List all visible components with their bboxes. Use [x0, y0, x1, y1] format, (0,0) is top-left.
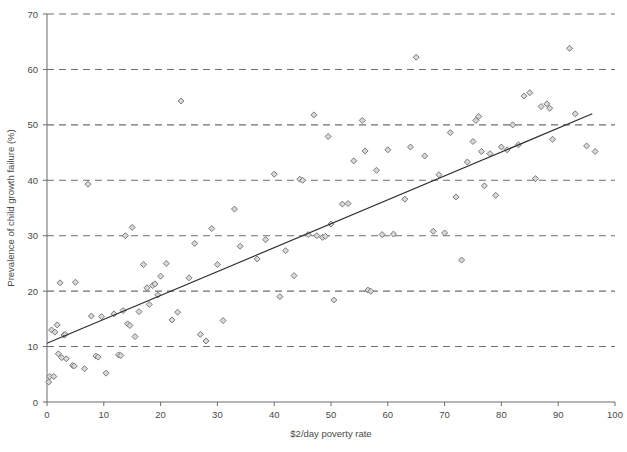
data-point [214, 262, 220, 268]
data-point [271, 171, 277, 177]
data-point [192, 240, 198, 246]
data-point [567, 45, 573, 51]
data-point [237, 243, 243, 249]
data-point [144, 285, 150, 291]
y-tick-label-60: 60 [27, 64, 38, 75]
data-point [291, 273, 297, 279]
data-point [146, 301, 152, 307]
data-point [550, 136, 556, 142]
x-tick-label-80: 80 [496, 409, 507, 420]
data-point [464, 159, 470, 165]
data-point [88, 313, 94, 319]
data-point [447, 130, 453, 136]
data-point [345, 201, 351, 207]
data-point [129, 224, 135, 230]
data-point [538, 104, 544, 110]
data-point [422, 153, 428, 159]
y-tick-label-10: 10 [27, 341, 38, 352]
data-point [277, 294, 283, 300]
x-tick-label-50: 50 [326, 409, 337, 420]
data-point [408, 144, 414, 150]
y-tick-label-50: 50 [27, 119, 38, 130]
data-point [197, 331, 203, 337]
data-point [339, 201, 345, 207]
data-point [141, 262, 147, 268]
data-point [314, 233, 320, 239]
data-point [57, 280, 63, 286]
data-point [99, 314, 105, 320]
data-point [430, 228, 436, 234]
data-point [402, 196, 408, 202]
plot-canvas: 010203040506070 0102030405060708090100 P… [0, 0, 627, 452]
x-tick-label-70: 70 [439, 409, 450, 420]
x-tick-labels: 0102030405060708090100 [44, 402, 623, 420]
gridlines [47, 14, 615, 347]
data-point [163, 260, 169, 266]
trend-line [47, 114, 592, 343]
x-tick-label-10: 10 [99, 409, 110, 420]
data-point [442, 230, 448, 236]
data-point [373, 167, 379, 173]
data-point [54, 322, 60, 328]
x-tick-label-20: 20 [155, 409, 166, 420]
data-point [178, 98, 184, 104]
data-points [46, 45, 598, 385]
data-point [527, 90, 533, 96]
y-tick-label-30: 30 [27, 230, 38, 241]
data-point [220, 318, 226, 324]
x-axis-title: $2/day poverty rate [290, 428, 371, 439]
data-point [453, 194, 459, 200]
x-tick-label-0: 0 [44, 409, 49, 420]
data-point [359, 117, 365, 123]
data-point [481, 183, 487, 189]
data-point [362, 148, 368, 154]
data-point [498, 144, 504, 150]
data-point [283, 248, 289, 254]
y-tick-label-70: 70 [27, 9, 38, 20]
scatter-chart: 010203040506070 0102030405060708090100 P… [0, 0, 627, 452]
y-tick-label-0: 0 [33, 397, 38, 408]
data-point [351, 158, 357, 164]
x-tick-label-100: 100 [607, 409, 623, 420]
data-point [132, 334, 138, 340]
data-point [85, 181, 91, 187]
data-point [521, 93, 527, 99]
data-point [413, 54, 419, 60]
data-point [169, 317, 175, 323]
data-point [584, 143, 590, 149]
x-tick-label-90: 90 [553, 409, 564, 420]
data-point [263, 237, 269, 243]
y-tick-label-20: 20 [27, 286, 38, 297]
data-point [231, 206, 237, 212]
axes [47, 14, 615, 402]
data-point [385, 147, 391, 153]
data-point [459, 257, 465, 263]
data-point [51, 374, 57, 380]
y-tick-labels: 010203040506070 [27, 9, 47, 408]
data-point [136, 309, 142, 315]
y-tick-label-40: 40 [27, 175, 38, 186]
data-point [510, 122, 516, 128]
y-axis-title: Prevalence of child growth failure (%) [5, 129, 16, 286]
data-point [331, 297, 337, 303]
data-point [209, 226, 215, 232]
x-tick-label-40: 40 [269, 409, 280, 420]
data-point [254, 256, 260, 262]
data-point [175, 309, 181, 315]
x-tick-label-30: 30 [212, 409, 223, 420]
data-point [493, 192, 499, 198]
data-point [103, 370, 109, 376]
data-point [81, 366, 87, 372]
data-point [158, 273, 164, 279]
data-point [311, 112, 317, 118]
data-point [186, 275, 192, 281]
data-point [72, 279, 78, 285]
data-point [592, 148, 598, 154]
data-point [479, 148, 485, 154]
data-point [325, 133, 331, 139]
x-tick-label-60: 60 [383, 409, 394, 420]
data-point [379, 232, 385, 238]
data-point [122, 233, 128, 239]
data-point [470, 138, 476, 144]
data-point [203, 338, 209, 344]
